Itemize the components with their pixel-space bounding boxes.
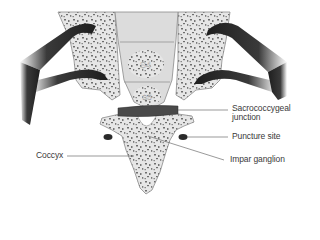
right-puncture-site-marker: [179, 134, 188, 140]
label-sacrococcygeal-line2: junction: [232, 113, 291, 122]
left-puncture-site-marker: [104, 134, 113, 140]
label-coccyx: Coccyx: [36, 151, 63, 160]
sacrococcygeal-junction-band: [118, 105, 178, 116]
label-impar-ganglion: Impar ganglion: [230, 155, 285, 164]
vertebra-label-s5: S5: [142, 93, 152, 102]
label-sacrococcygeal-junction: Sacrococcygeal junction: [232, 104, 291, 122]
vertebra-label-s4: S4: [140, 60, 151, 70]
label-puncture-site: Puncture site: [232, 132, 280, 141]
